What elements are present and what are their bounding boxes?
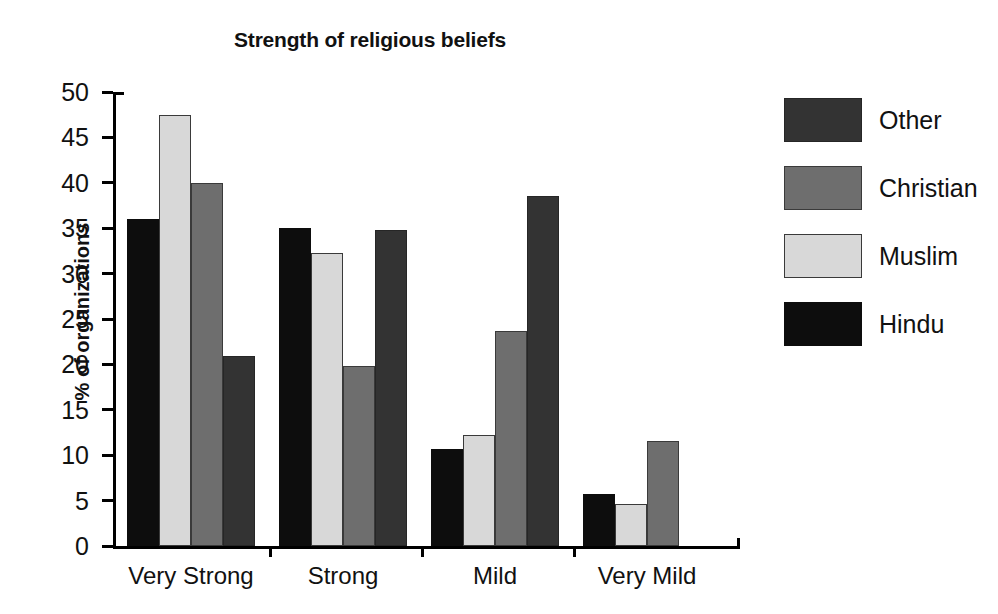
x-axis-end-cap	[737, 538, 740, 549]
y-axis-line	[113, 92, 116, 546]
y-tick-label: 20	[61, 352, 89, 377]
bar-other-strong[interactable]	[375, 230, 407, 546]
y-tick-label: 0	[75, 534, 89, 559]
x-tick-label: Mild	[473, 564, 517, 588]
y-tick: 25	[102, 318, 113, 321]
y-tick: 20	[102, 363, 113, 366]
legend-item-hindu[interactable]: Hindu	[784, 290, 994, 358]
bar-other-mild[interactable]	[527, 196, 559, 546]
y-tick: 0	[102, 545, 113, 548]
y-tick-label: 5	[75, 488, 89, 513]
legend-swatch-other	[784, 98, 862, 142]
bar-other-very-strong[interactable]	[223, 356, 255, 546]
y-tick-label: 30	[61, 261, 89, 286]
bar-muslim-strong[interactable]	[311, 253, 343, 546]
y-tick-label: 50	[61, 80, 89, 105]
bar-christian-very-strong[interactable]	[191, 183, 223, 546]
x-tick	[269, 546, 272, 557]
x-tick-label: Strong	[308, 564, 379, 588]
bar-hindu-strong[interactable]	[279, 228, 311, 546]
bar-muslim-very-mild[interactable]	[615, 504, 647, 546]
bar-hindu-very-strong[interactable]	[127, 219, 159, 546]
x-tick	[421, 546, 424, 557]
bar-christian-strong[interactable]	[343, 366, 375, 546]
y-tick: 10	[102, 454, 113, 457]
bar-group	[431, 92, 559, 546]
y-tick-label: 10	[61, 443, 89, 468]
y-tick: 15	[102, 408, 113, 411]
bar-christian-mild[interactable]	[495, 331, 527, 546]
x-axis-line	[113, 546, 740, 549]
plot-area: 05101520253035404550 Very StrongStrongMi…	[113, 92, 740, 546]
y-tick: 50	[102, 91, 113, 94]
legend-swatch-muslim	[784, 234, 862, 278]
bar-group	[127, 92, 255, 546]
chart-title: Strength of religious beliefs	[0, 28, 740, 52]
legend-item-muslim[interactable]: Muslim	[784, 222, 994, 290]
bar-muslim-very-strong[interactable]	[159, 115, 191, 546]
y-tick-label: 25	[61, 307, 89, 332]
y-tick-label: 40	[61, 170, 89, 195]
y-tick: 35	[102, 227, 113, 230]
legend-swatch-christian	[784, 166, 862, 210]
x-tick	[573, 546, 576, 557]
legend-swatch-hindu	[784, 302, 862, 346]
legend-item-christian[interactable]: Christian	[784, 154, 994, 222]
y-tick-label: 45	[61, 125, 89, 150]
y-tick: 30	[102, 272, 113, 275]
legend-item-other[interactable]: Other	[784, 86, 994, 154]
y-tick: 5	[102, 499, 113, 502]
x-tick-label: Very Mild	[598, 564, 697, 588]
bar-hindu-mild[interactable]	[431, 449, 463, 546]
y-tick: 45	[102, 136, 113, 139]
y-tick-label: 15	[61, 397, 89, 422]
bar-hindu-very-mild[interactable]	[583, 494, 615, 546]
legend-label: Hindu	[879, 312, 944, 337]
legend-label: Christian	[879, 176, 978, 201]
y-tick: 40	[102, 181, 113, 184]
legend-label: Other	[879, 108, 942, 133]
bar-christian-very-mild[interactable]	[647, 441, 679, 546]
bar-muslim-mild[interactable]	[463, 435, 495, 546]
chart-legend: OtherChristianMuslimHindu	[784, 86, 994, 358]
y-axis-top-cap	[113, 92, 124, 95]
legend-label: Muslim	[879, 244, 958, 269]
y-tick-label: 35	[61, 216, 89, 241]
bar-group	[583, 92, 711, 546]
bar-chart-figure: Strength of religious beliefs % of organ…	[0, 0, 998, 614]
bar-group	[279, 92, 407, 546]
x-tick-label: Very Strong	[128, 564, 253, 588]
